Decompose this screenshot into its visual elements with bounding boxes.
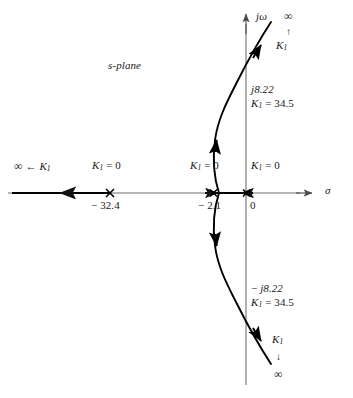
upper-direction-arrow-icon: ↑ [286, 27, 291, 38]
locus-lower-branch [214, 193, 271, 364]
upper-crossing-gain-label: K1 = 34.5 [251, 98, 294, 110]
lower-infinity-label: ∞ [274, 368, 283, 381]
lower-crossing-value-label: − j8.22 [251, 283, 283, 295]
gain-zero-label-minus-2-1: K1 = 0 [190, 160, 219, 172]
gain-zero-label-origin: K1 = 0 [251, 160, 280, 172]
root-locus-canvas [0, 0, 353, 398]
lower-crossing-gain-label: K1 = 34.5 [251, 297, 294, 309]
real-axis-label: σ [325, 185, 331, 197]
upper-crossing-value-label: j8.22 [251, 84, 274, 96]
pole-value-minus-32-4: − 32.4 [91, 200, 120, 212]
origin-value-label: 0 [250, 200, 256, 212]
lower-direction-arrow-icon: ↓ [276, 352, 281, 363]
left-branch-infinity-label: ∞ ← K1 [14, 160, 51, 173]
lower-branch-gain-label: K1 [272, 334, 283, 346]
upper-branch-gain-label: K1 [276, 40, 287, 52]
s-plane-label: s-plane [108, 60, 141, 72]
upper-infinity-label: ∞ [284, 10, 293, 23]
pole-value-minus-2-1: − 2.1 [198, 200, 221, 212]
gain-zero-label-minus-32-4: K1 = 0 [92, 160, 121, 172]
root-locus-figure: s-plane jω ∞ ↑ K1 j8.22 K1 = 34.5 ∞ ← K1… [0, 0, 353, 398]
imaginary-axis-label: jω [256, 11, 267, 23]
